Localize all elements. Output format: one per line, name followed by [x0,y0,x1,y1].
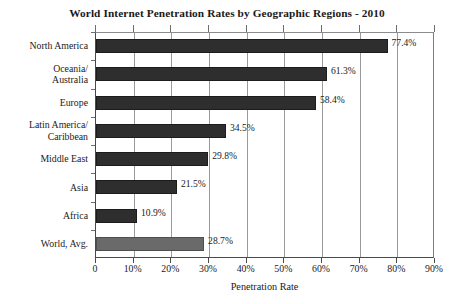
x-axis-tick-label: 40% [237,263,255,274]
plot-area: 77.4%61.3%58.4%34.5%29.8%21.5%10.9%28.7% [95,32,434,258]
bar-asia[interactable] [96,180,177,194]
bar-value-label: 58.4% [320,94,345,105]
y-axis-label-asia: Asia [0,182,90,194]
top-tick [246,25,247,32]
bar-row: 21.5% [96,174,433,202]
bar-value-label: 10.9% [141,207,166,218]
bar-africa[interactable] [96,209,137,223]
x-axis-tick-label: 0 [93,263,98,274]
bar-row: 28.7% [96,231,433,259]
bar-row: 61.3% [96,61,433,89]
bar-value-label: 61.3% [331,65,356,76]
top-tick [396,25,397,32]
bar-north-america[interactable] [96,39,388,53]
bar-value-label: 29.8% [212,150,237,161]
y-axis-tick [91,117,95,118]
bar-row: 10.9% [96,203,433,231]
y-axis-tick [91,60,95,61]
top-tick [321,25,322,32]
bar-europe[interactable] [96,96,316,110]
y-axis-category-labels: North AmericaOceania/AustraliaEuropeLati… [0,32,90,258]
y-axis-tick [91,89,95,90]
x-axis-title: Penetration Rate [95,281,434,292]
bar-value-label: 21.5% [181,178,206,189]
top-tick [170,25,171,32]
y-axis-tick [91,32,95,33]
y-axis-tick [91,145,95,146]
top-tick [133,25,134,32]
y-axis-label-middle-east: Middle East [0,153,90,165]
y-axis-label-north-america: North America [0,40,90,52]
y-axis-label-world-avg: World, Avg. [0,238,90,250]
x-axis-tick-label: 20% [161,263,179,274]
y-axis-tick [91,173,95,174]
top-tick [95,25,96,32]
y-axis-label-europe: Europe [0,97,90,109]
y-axis-label-oceania-australia: Oceania/Australia [0,63,90,86]
x-axis-tick-label: 80% [387,263,405,274]
top-tick [208,25,209,32]
bar-row: 29.8% [96,146,433,174]
bars-layer: 77.4%61.3%58.4%34.5%29.8%21.5%10.9%28.7% [96,33,433,257]
y-axis-label-latin-america-caribbean: Latin America/Caribbean [0,119,90,142]
y-axis-label-africa: Africa [0,210,90,222]
x-axis-tick-label: 30% [199,263,217,274]
bar-row: 34.5% [96,118,433,146]
top-tick [359,25,360,32]
chart-title: World Internet Penetration Rates by Geog… [0,7,454,20]
top-tick [283,25,284,32]
top-tick-marks [95,25,434,32]
bar-oceania-australia[interactable] [96,67,327,81]
bar-chart: World Internet Penetration Rates by Geog… [0,0,454,304]
bar-row: 58.4% [96,90,433,118]
bar-value-label: 77.4% [392,37,417,48]
x-axis-tick-label: 60% [312,263,330,274]
bar-world-avg[interactable] [96,237,204,251]
x-axis-tick-label: 90% [425,263,443,274]
bar-row: 77.4% [96,33,433,61]
x-axis-tick-labels: 010%20%30%40%50%60%70%80%90% [0,263,454,277]
y-axis-tick [91,202,95,203]
y-axis-tick [91,230,95,231]
bar-latin-america-caribbean[interactable] [96,124,226,138]
bar-middle-east[interactable] [96,152,208,166]
x-axis-tick-label: 10% [124,263,142,274]
x-axis-tick-label: 70% [350,263,368,274]
x-axis-tick-label: 50% [274,263,292,274]
top-tick [434,25,435,32]
bar-value-label: 28.7% [208,235,233,246]
bar-value-label: 34.5% [230,122,255,133]
